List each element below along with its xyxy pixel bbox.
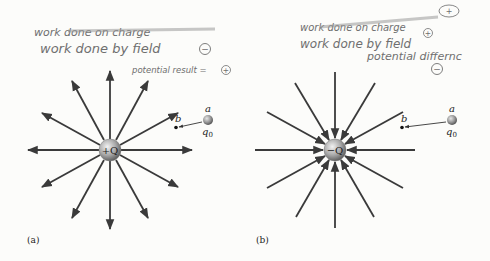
field-line-arrow [345, 112, 403, 144]
displacement-arrow [179, 122, 202, 127]
test-charge-label: q0 [202, 126, 213, 139]
field-diagram-canvas: work done on charge work done by field −… [0, 0, 490, 261]
note-work-done-by-field-left: work done by field [40, 41, 161, 56]
field-line-arrow [116, 81, 148, 140]
source-charge-negative: −Q [324, 139, 346, 161]
displacement-arrow [405, 122, 446, 127]
svg-text:+: + [446, 7, 453, 16]
test-charge-path-b: b a q0 [400, 103, 457, 139]
svg-text:+: + [425, 29, 431, 38]
test-charge-sphere [447, 115, 457, 125]
electric-field-figure: work done on charge work done by field −… [0, 0, 490, 261]
point-b-label: b [401, 113, 407, 124]
field-line-arrow [341, 83, 375, 140]
point-b-dot [174, 126, 178, 130]
handwritten-notes-right: work done on charge + work done by field… [300, 5, 462, 75]
charge-label: +Q [102, 145, 119, 156]
svg-text:−: − [433, 64, 441, 74]
handwritten-notes-left: work done on charge work done by field −… [34, 26, 231, 75]
field-line-arrow [295, 83, 329, 140]
test-charge-sphere [203, 115, 213, 125]
caption-a: (a) [27, 235, 39, 245]
svg-text:−: − [201, 44, 209, 54]
point-b-label: b [175, 113, 181, 124]
note-potential-result-left: potential result = [131, 65, 207, 75]
caption-b: (b) [256, 235, 269, 245]
point-b-dot [400, 126, 404, 130]
struck-note-left: work done on charge [34, 26, 151, 39]
field-line-arrow [267, 112, 325, 144]
charge-label: −Q [327, 145, 344, 156]
svg-text:+: + [223, 66, 229, 75]
point-a-label: a [449, 103, 455, 114]
note-potential-difference-right: potential differnc [366, 50, 462, 63]
strikethrough-line [68, 29, 215, 31]
test-charge-label: q0 [446, 126, 457, 139]
test-charge-path-a: b a q0 [174, 103, 213, 139]
source-charge-positive: +Q [99, 139, 121, 161]
point-a-label: a [205, 103, 211, 114]
field-line-arrow [72, 81, 104, 140]
note-work-done-by-field-right: work done by field [300, 37, 412, 51]
